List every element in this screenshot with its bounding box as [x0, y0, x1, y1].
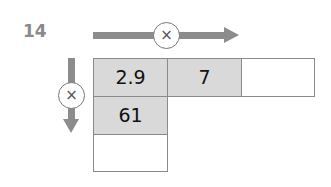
multiply-operator-horizontal: ×	[153, 22, 180, 49]
question-number: 14	[23, 21, 47, 41]
multiply-operator-vertical: ×	[58, 82, 85, 109]
cell-start: 2.9	[93, 58, 168, 97]
right-arrow-icon	[224, 27, 239, 43]
cell-row1-col2: 7	[167, 58, 242, 97]
answer-cell-row1-col3[interactable]	[241, 58, 315, 97]
cell-row2-col1: 61	[93, 96, 168, 135]
answer-cell-row3-col1[interactable]	[93, 134, 168, 172]
down-arrow-icon	[63, 119, 79, 133]
